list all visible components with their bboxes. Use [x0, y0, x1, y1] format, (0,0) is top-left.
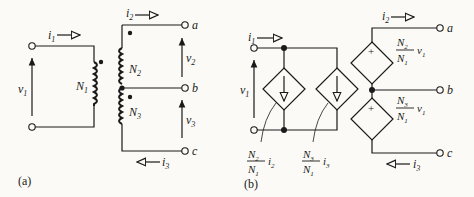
- terminal-c[interactable]: [182, 148, 188, 154]
- tap-junction: [119, 85, 124, 90]
- secondary-bottom-wire: [122, 124, 182, 151]
- svg-text:N1: N1: [396, 52, 408, 67]
- terminal-c-label: c: [192, 144, 198, 158]
- i2-label: i2: [126, 6, 133, 22]
- b-terminal-c-label: c: [447, 146, 453, 160]
- primary-top-wire: [35, 46, 94, 62]
- dependent-current-source-i3: [316, 68, 358, 110]
- n3-label: N3: [128, 105, 141, 121]
- svg-text:i2: i2: [268, 155, 275, 170]
- n2-label: N2: [128, 62, 141, 78]
- terminal-a[interactable]: [182, 22, 188, 28]
- coef-i3: N3 N1 i3: [302, 148, 330, 178]
- b-i3-label: i3: [413, 157, 420, 173]
- secondary-upper-coil: [119, 48, 122, 84]
- leader-i3: [313, 103, 328, 142]
- secondary-lower-polarity-dot: [128, 95, 132, 99]
- v1-label: v1: [18, 82, 27, 98]
- terminal-a-label: a: [192, 18, 198, 32]
- dependent-current-source-i2: [263, 68, 305, 110]
- b-primary-bottom-terminal[interactable]: [251, 127, 257, 133]
- primary-bottom-wire: [35, 106, 94, 127]
- svg-text:+: +: [368, 102, 374, 114]
- n1-label: N1: [75, 79, 88, 95]
- svg-text:v1: v1: [417, 44, 425, 59]
- transformer-figure: v1 N1 i1 N2 N3 a b c v2 v3 i2 i3: [0, 0, 474, 197]
- b-terminal-a-label: a: [447, 21, 453, 35]
- secondary-lower-coil: [119, 88, 122, 124]
- terminal-b-label: b: [192, 81, 198, 95]
- primary-bottom-terminal[interactable]: [29, 124, 35, 130]
- panel-a-caption: (a): [18, 174, 31, 188]
- dependent-voltage-source-v3: +: [351, 98, 393, 140]
- b-terminal-c[interactable]: [437, 150, 443, 156]
- dependent-voltage-source-v2: +: [351, 42, 393, 84]
- b-bottom-node: [281, 127, 287, 133]
- panel-a: v1 N1 i1 N2 N3 a b c v2 v3 i2 i3: [18, 6, 198, 188]
- primary-polarity-dot: [99, 60, 103, 64]
- svg-text:N1: N1: [396, 110, 408, 125]
- svg-text:N2: N2: [396, 36, 408, 51]
- leader-i2: [261, 103, 276, 142]
- b-bottom-rail: [257, 110, 337, 130]
- b-top-rail: [257, 48, 337, 68]
- v2-label: v2: [186, 51, 195, 67]
- b-i2-label: i2: [382, 9, 389, 25]
- b-top-node: [281, 45, 287, 51]
- svg-text:v1: v1: [417, 102, 425, 117]
- b-terminal-c-wire: [372, 140, 437, 153]
- svg-text:N1: N1: [247, 163, 259, 178]
- panel-b-caption: (b): [244, 177, 258, 191]
- b-i1-label: i1: [248, 30, 255, 46]
- v3-label: v3: [186, 113, 195, 129]
- coef-i2: N2 N1 i2: [247, 148, 275, 178]
- coef-v3: N3 N1 v1: [396, 94, 425, 125]
- primary-top-terminal[interactable]: [29, 43, 35, 49]
- panel-b: v1 i1 N2 N1 i2 N3 N1 i3 + +: [240, 9, 453, 191]
- i1-label: i1: [48, 28, 55, 44]
- primary-coil: [94, 62, 97, 106]
- b-terminal-a-wire: [372, 28, 437, 42]
- terminal-b[interactable]: [182, 85, 188, 91]
- b-terminal-a[interactable]: [437, 25, 443, 31]
- b-terminal-b[interactable]: [437, 87, 443, 93]
- b-v1-label: v1: [240, 83, 249, 99]
- svg-text:i3: i3: [323, 155, 330, 170]
- coef-v2: N2 N1 v1: [396, 36, 425, 67]
- svg-text:N3: N3: [396, 94, 408, 109]
- b-terminal-b-label: b: [447, 83, 453, 97]
- i3-label: i3: [162, 155, 169, 171]
- secondary-upper-polarity-dot: [128, 31, 132, 35]
- svg-text:N1: N1: [302, 163, 314, 178]
- svg-text:+: +: [368, 45, 374, 57]
